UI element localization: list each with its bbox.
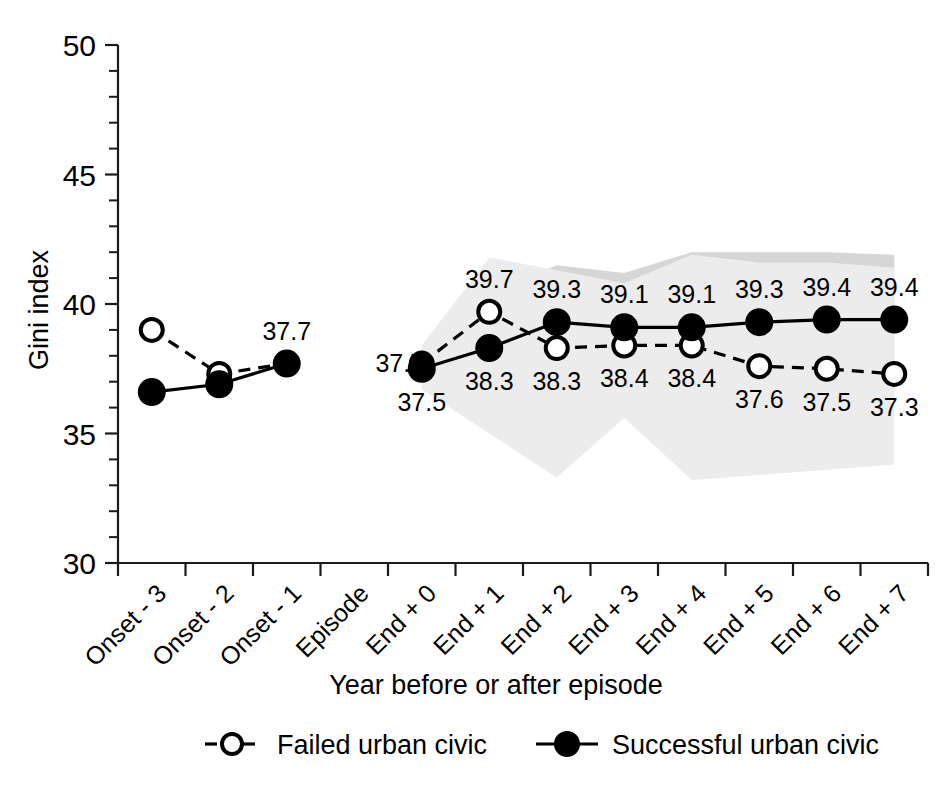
data-point-failed-urban-civic-6	[546, 337, 568, 359]
data-point-failed-urban-civic-9	[748, 355, 770, 377]
data-label: 39.7	[465, 265, 514, 293]
data-label: 38.4	[667, 364, 716, 392]
legend-layer: Failed urban civicSuccessful urban civic	[205, 730, 879, 760]
x-tick-label: Episode	[290, 579, 374, 663]
y-tick-label: 35	[63, 418, 96, 451]
data-label: 39.3	[735, 275, 784, 303]
legend-label: Failed urban civic	[277, 730, 487, 760]
data-point-failed-urban-civic-0	[141, 319, 163, 341]
data-point-failed-urban-civic-10	[816, 358, 838, 380]
data-label: 37.7	[262, 317, 311, 345]
data-point-failed-urban-civic-11	[883, 363, 905, 385]
chart-canvas: 37.739.738.338.438.437.637.537.337.737.5…	[0, 0, 950, 789]
legend-marker-filled-circle	[555, 732, 579, 756]
x-tick-label: End + 7	[833, 579, 914, 660]
data-label: 37.5	[397, 388, 446, 416]
data-label: 38.4	[600, 364, 649, 392]
data-point-successful-urban-civic-5	[476, 335, 502, 361]
x-tick-label: End + 5	[698, 579, 779, 660]
y-tick-label: 30	[63, 547, 96, 580]
data-label: 38.3	[532, 367, 581, 395]
data-point-successful-urban-civic-7	[611, 314, 637, 340]
data-point-successful-urban-civic-8	[679, 314, 705, 340]
data-label: 39.4	[870, 273, 919, 301]
x-tick-label: End + 6	[765, 579, 846, 660]
x-tick-label: End + 3	[563, 579, 644, 660]
data-label: 37.3	[870, 393, 919, 421]
data-label: 37.6	[735, 385, 784, 413]
legend-entry-failed-urban-civic[interactable]: Failed urban civic	[205, 730, 487, 760]
y-tick-label: 40	[63, 288, 96, 321]
y-tick-label: 50	[63, 29, 96, 62]
data-point-successful-urban-civic-6	[544, 309, 570, 335]
gini-index-chart: 37.739.738.338.438.437.637.537.337.737.5…	[0, 0, 950, 789]
legend-entry-successful-urban-civic[interactable]: Successful urban civic	[536, 730, 879, 760]
x-tick-label: End + 2	[495, 579, 576, 660]
data-point-successful-urban-civic-10	[814, 307, 840, 333]
data-label: 37.5	[802, 388, 851, 416]
data-point-failed-urban-civic-5	[478, 301, 500, 323]
data-point-successful-urban-civic-0	[139, 379, 165, 405]
data-label: 38.3	[465, 367, 514, 395]
data-point-successful-urban-civic-11	[881, 307, 907, 333]
x-tick-label: End + 4	[630, 579, 711, 660]
data-point-successful-urban-civic-2	[274, 351, 300, 377]
data-label: 39.1	[667, 280, 716, 308]
x-tick-label: End + 0	[360, 579, 441, 660]
data-label: 39.1	[600, 280, 649, 308]
data-label: 39.3	[532, 275, 581, 303]
legend-label: Successful urban civic	[612, 730, 879, 760]
y-axis-title: Gini index	[24, 249, 54, 370]
data-label: 37.7	[375, 349, 424, 377]
data-point-successful-urban-civic-1	[206, 371, 232, 397]
x-tick-label: End + 1	[428, 579, 509, 660]
y-tick-label: 45	[63, 159, 96, 192]
legend-marker-open-circle	[222, 734, 242, 754]
data-point-successful-urban-civic-9	[746, 309, 772, 335]
data-label: 39.4	[802, 273, 851, 301]
x-axis-title: Year before or after episode	[329, 670, 663, 700]
